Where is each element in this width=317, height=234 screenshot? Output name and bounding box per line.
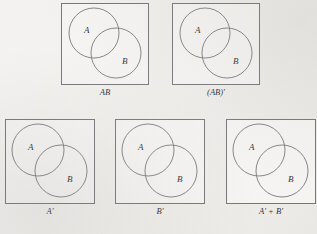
set-label-b: B (233, 57, 239, 66)
circle-b (91, 28, 141, 78)
panel-caption: B' (115, 207, 205, 216)
venn-panel-a-complement: A B A' (5, 119, 95, 219)
set-label-b: B (288, 175, 294, 184)
venn-panel-ab: A B AB (61, 3, 149, 103)
panel-caption: A' + B' (226, 207, 316, 216)
circle-a (12, 124, 64, 176)
set-label-a: A (195, 26, 201, 35)
venn-panel-ab-complement: A B (AB)' (172, 3, 260, 103)
circle-a (122, 124, 174, 176)
set-label-a: A (28, 143, 34, 152)
venn-circles (226, 119, 316, 204)
venn-circles (5, 119, 95, 204)
circle-b (145, 145, 197, 197)
venn-circles (172, 3, 260, 85)
venn-panel-a-plus-b-complement: A B A' + B' (226, 119, 316, 219)
set-label-a: A (138, 143, 144, 152)
circle-a (233, 124, 285, 176)
circle-b (256, 145, 308, 197)
venn-figure: A B AB A B (AB)' A B A' A B B' (0, 0, 317, 234)
panel-caption: (AB)' (172, 88, 260, 97)
circle-a (180, 8, 230, 58)
set-label-a: A (84, 26, 90, 35)
set-label-b: B (122, 57, 128, 66)
circle-b (35, 145, 87, 197)
panel-caption: A' (5, 207, 95, 216)
set-label-b: B (177, 175, 183, 184)
venn-panel-b-complement: A B B' (115, 119, 205, 219)
venn-circles (61, 3, 149, 85)
venn-circles (115, 119, 205, 204)
circle-b (202, 28, 252, 78)
panel-caption: AB (61, 88, 149, 97)
circle-a (69, 8, 119, 58)
set-label-b: B (67, 175, 73, 184)
set-label-a: A (249, 143, 255, 152)
